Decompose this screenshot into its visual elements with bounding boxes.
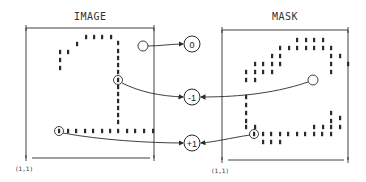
- mask-pixel: [313, 125, 315, 129]
- mask-pixel: [330, 54, 332, 58]
- mask-pixel: [330, 46, 332, 50]
- image-marked-pixel: [117, 78, 119, 82]
- diagram-canvas: IMAGE (1,1) MASK (1,1): [0, 0, 366, 182]
- arrow-image-empty-circle-to-node-0: [148, 44, 183, 46]
- image-pixel: [67, 50, 69, 54]
- mask-pixel: [271, 54, 273, 58]
- image-pixel: [59, 50, 61, 54]
- image-pixel: [85, 35, 87, 39]
- mask-pixel: [330, 119, 332, 123]
- node-label: -1: [188, 93, 196, 103]
- image-pixel: [59, 66, 61, 70]
- image-pixel: [101, 129, 103, 133]
- image-pixel: [117, 41, 119, 45]
- mask-pixel: [245, 119, 247, 123]
- mask-pixel: [262, 62, 264, 66]
- arrow-image-marked-point-2-to-node-plus-1: [63, 133, 183, 143]
- result-node-2: +1: [184, 135, 200, 151]
- image-pixel: [101, 35, 103, 39]
- image-marked-pixel: [58, 129, 60, 133]
- image-panel: IMAGE (1,1): [15, 11, 154, 172]
- image-pixel: [117, 70, 119, 74]
- mask-marked-points: [250, 130, 259, 139]
- image-pixel: [117, 63, 119, 67]
- image-marked-points: [55, 76, 123, 136]
- mask-pixel: [279, 46, 281, 50]
- mask-pixel: [321, 132, 323, 136]
- mask-pixel: [245, 125, 247, 129]
- mask-panel: MASK (1,1): [211, 11, 349, 174]
- mask-pixel: [245, 103, 247, 107]
- mask-pixel: [322, 125, 324, 129]
- mask-pixel: [330, 111, 332, 115]
- image-pixel: [126, 129, 128, 133]
- image-pixel: [67, 129, 69, 133]
- mask-pixel: [330, 132, 332, 136]
- mask-marked-pixel: [253, 132, 255, 136]
- mask-pixel: [254, 78, 256, 82]
- image-pixel: [117, 49, 119, 53]
- image-pixel: [117, 129, 119, 133]
- image-frame: [26, 25, 154, 161]
- mask-pixel: [288, 46, 290, 50]
- mask-pixel: [330, 70, 332, 74]
- image-pixel: [152, 129, 154, 133]
- mask-pixel: [347, 62, 349, 66]
- result-node-0: 0: [184, 36, 200, 52]
- image-pixel: [134, 129, 136, 133]
- mask-pixel: [339, 116, 341, 120]
- mask-pixel: [339, 54, 341, 58]
- mask-pixel: [245, 95, 247, 99]
- mask-pixel: [279, 140, 281, 144]
- mask-pixel: [270, 140, 272, 144]
- mask-pixel: [287, 132, 289, 136]
- image-pixel: [117, 99, 119, 103]
- mask-title: MASK: [272, 11, 298, 22]
- mask-pixels: [245, 38, 349, 144]
- mask-empty-circle: [308, 75, 318, 85]
- node-label: +1: [187, 139, 197, 149]
- mask-pixel: [279, 54, 281, 58]
- mask-pixel: [254, 70, 256, 74]
- image-pixel: [93, 35, 95, 39]
- image-pixel: [117, 92, 119, 96]
- mask-pixel: [304, 132, 306, 136]
- mask-pixel: [296, 46, 298, 50]
- mask-pixel: [245, 70, 247, 74]
- image-pixel: [109, 129, 111, 133]
- image-pixel: [76, 42, 78, 46]
- mask-pixel: [279, 62, 281, 66]
- mask-pixel: [254, 62, 256, 66]
- mask-pixel: [322, 38, 324, 42]
- mask-pixel: [245, 78, 247, 82]
- arrow-mask-empty-circle-to-node-minus-1: [201, 82, 308, 97]
- mask-pixel: [313, 38, 315, 42]
- mask-pixel: [305, 38, 307, 42]
- image-empty-circle: [138, 41, 148, 51]
- image-pixel: [110, 35, 112, 39]
- mask-origin-label: (1,1): [211, 167, 229, 174]
- mask-pixel: [330, 125, 332, 129]
- mask-pixel: [254, 125, 256, 129]
- mask-pixel: [296, 38, 298, 42]
- image-pixel: [59, 58, 61, 62]
- arrow-mask-marked-point-to-node-plus-1: [201, 135, 250, 143]
- mask-pixel: [270, 132, 272, 136]
- mask-pixel: [305, 46, 307, 50]
- image-pixel: [117, 106, 119, 110]
- image-pixel: [117, 113, 119, 117]
- mask-pixel: [271, 70, 273, 74]
- mask-pixel: [245, 111, 247, 115]
- image-pixel: [143, 129, 145, 133]
- image-pixel: [117, 85, 119, 89]
- image-pixel: [75, 129, 77, 133]
- result-nodes: 0-1+1: [184, 36, 200, 151]
- image-pixel: [117, 56, 119, 60]
- mask-pixel: [296, 132, 298, 136]
- mask-pixel: [313, 46, 315, 50]
- mask-pixel: [279, 132, 281, 136]
- arrow-image-marked-point-1-to-node-minus-1: [122, 83, 183, 97]
- image-pixel: [92, 129, 94, 133]
- node-label: 0: [189, 40, 194, 50]
- mask-pixel: [271, 62, 273, 66]
